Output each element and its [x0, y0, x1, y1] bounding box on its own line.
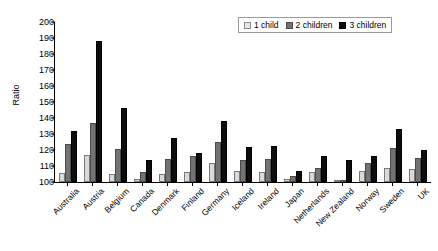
bar — [296, 171, 302, 182]
x-axis-tick-label: Norway — [353, 186, 380, 213]
x-axis-tick-label: Japan — [282, 186, 305, 209]
x-axis-labels: AustraliaAustriaBelgiumCanadaDenmarkFinl… — [55, 186, 430, 250]
bar — [346, 160, 352, 182]
bar-group — [380, 22, 405, 182]
bar-group — [80, 22, 105, 182]
bar — [321, 156, 327, 182]
legend-swatch-icon — [339, 22, 346, 29]
bar-groups — [55, 22, 430, 182]
x-axis-tick-label: Iceland — [229, 186, 255, 212]
bar-group — [230, 22, 255, 182]
bar-group — [155, 22, 180, 182]
bar — [196, 153, 202, 182]
legend-item-2-children: 2 children — [286, 20, 333, 30]
y-axis-title-text: Ratio — [10, 84, 20, 105]
legend-swatch-icon — [286, 22, 293, 29]
y-axis-title: Ratio — [6, 0, 24, 190]
x-axis-tick-label: Australia — [50, 186, 80, 216]
bar-group — [330, 22, 355, 182]
bar — [71, 131, 77, 182]
legend-item-3-children: 3 children — [339, 20, 386, 30]
bar-group — [130, 22, 155, 182]
bar — [271, 146, 277, 182]
bar-group — [105, 22, 130, 182]
bar — [221, 121, 227, 182]
bar — [421, 150, 427, 182]
bar-group — [180, 22, 205, 182]
bar-group — [355, 22, 380, 182]
bar — [146, 160, 152, 182]
bar-group — [280, 22, 305, 182]
bar-group — [255, 22, 280, 182]
x-axis-tick-label: Sweden — [377, 186, 406, 215]
bar-group — [305, 22, 330, 182]
bar-group — [55, 22, 80, 182]
bar-group — [405, 22, 430, 182]
x-axis-tick-label: Belgium — [102, 186, 131, 215]
legend-swatch-icon — [244, 22, 251, 29]
legend-item-1-child: 1 child — [244, 20, 279, 30]
bar — [371, 156, 377, 182]
bar-chart: Ratio 100110120130140150160170180190200 … — [0, 0, 438, 251]
bar — [96, 41, 102, 182]
x-axis-tick-label: Ireland — [255, 186, 280, 211]
legend-label: 2 children — [296, 20, 333, 30]
legend-label: 1 child — [254, 20, 279, 30]
chart-legend: 1 child 2 children 3 children — [238, 17, 392, 33]
bar — [246, 147, 252, 182]
x-axis-tick-label: UK — [415, 186, 430, 201]
bar-group — [205, 22, 230, 182]
bar — [171, 138, 177, 182]
legend-label: 3 children — [349, 20, 386, 30]
plot-area: 100110120130140150160170180190200 — [55, 22, 430, 182]
bar — [396, 129, 402, 182]
bar — [121, 108, 127, 182]
